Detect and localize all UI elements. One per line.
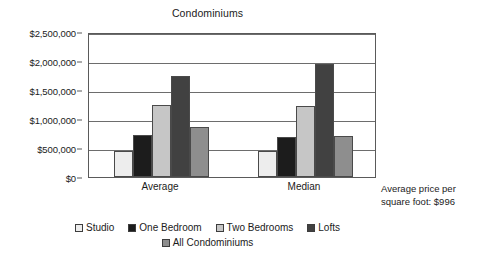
bar-one-bedroom-average: [133, 135, 152, 177]
bar-lofts-average: [171, 76, 190, 178]
y-axis-tick-mark: [77, 149, 82, 150]
bar-studio-median: [258, 151, 277, 177]
note-line-2: square foot: $996: [381, 195, 481, 208]
bars-layer: [89, 34, 375, 177]
legend-swatch-icon: [162, 239, 170, 247]
bar-one-bedroom-median: [277, 137, 296, 177]
legend-label: All Condominiums: [173, 235, 254, 250]
note-line-1: Average price per: [381, 182, 481, 195]
legend-swatch-icon: [216, 224, 224, 232]
bar-all-condominiums-average: [190, 127, 209, 177]
y-axis-tick-label: $2,500,000: [29, 28, 76, 39]
plot-area: [88, 33, 376, 178]
x-axis-label-average: Average: [141, 181, 178, 192]
legend-row-secondary: All Condominiums: [0, 235, 415, 250]
legend-swatch-icon: [307, 224, 315, 232]
legend-item-two-bedrooms[interactable]: Two Bedrooms: [216, 220, 294, 235]
y-axis-tick-label: $500,000: [37, 144, 76, 155]
bar-two-bedrooms-median: [296, 106, 315, 177]
y-axis-tick-mark: [77, 62, 82, 63]
bar-two-bedrooms-average: [152, 105, 171, 178]
y-axis-tick-label: $1,500,000: [29, 86, 76, 97]
chart-title: Condominiums: [0, 7, 415, 19]
y-axis-tick-mark: [77, 91, 82, 92]
y-axis: $2,500,000$2,000,000$1,500,000$1,000,000…: [8, 33, 82, 178]
legend-item-one-bedroom[interactable]: One Bedroom: [128, 220, 201, 235]
y-axis-tick-mark: [77, 178, 82, 179]
condominiums-bar-chart: Condominiums $2,500,000$2,000,000$1,500,…: [0, 0, 483, 256]
legend-label: One Bedroom: [139, 220, 201, 235]
legend-item-studio[interactable]: Studio: [75, 220, 114, 235]
price-per-square-foot-note: Average price per square foot: $996: [381, 182, 481, 208]
legend-swatch-icon: [75, 224, 83, 232]
legend-item-all-condominiums[interactable]: All Condominiums: [162, 235, 254, 250]
legend-label: Studio: [86, 220, 114, 235]
y-axis-tick-label: $0: [66, 173, 76, 184]
x-axis-label-median: Median: [288, 181, 321, 192]
legend-swatch-icon: [128, 224, 136, 232]
legend-label: Two Bedrooms: [227, 220, 294, 235]
y-axis-tick-label: $2,000,000: [29, 57, 76, 68]
bar-studio-average: [114, 151, 133, 177]
y-axis-tick-label: $1,000,000: [29, 115, 76, 126]
legend-row-primary: StudioOne BedroomTwo BedroomsLofts: [0, 220, 415, 235]
bar-all-condominiums-median: [334, 136, 353, 177]
y-axis-tick-mark: [77, 33, 82, 34]
bar-lofts-median: [315, 64, 334, 177]
y-axis-tick-mark: [77, 120, 82, 121]
x-axis-labels: AverageMedian: [88, 181, 376, 197]
chart-legend: StudioOne BedroomTwo BedroomsLofts All C…: [0, 220, 415, 250]
legend-label: Lofts: [318, 220, 340, 235]
legend-item-lofts[interactable]: Lofts: [307, 220, 340, 235]
